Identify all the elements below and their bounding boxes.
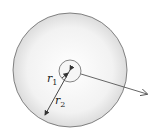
diagram-canvas: r1 r2	[0, 0, 154, 129]
inner-circle	[59, 60, 81, 82]
